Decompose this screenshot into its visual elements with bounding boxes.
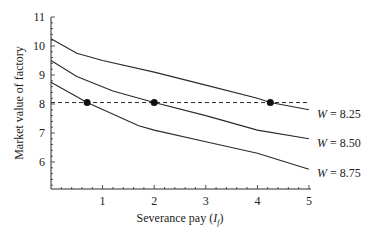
series-label: W = 8.75: [317, 166, 361, 180]
x-tick-label: 2: [151, 194, 157, 208]
y-tick-label: 11: [33, 10, 45, 24]
plot-area: 6789101112345Severance pay (If)Market va…: [12, 10, 361, 227]
y-axis-title: Market value of factory: [12, 46, 26, 160]
intersection-marker: [84, 99, 91, 106]
x-tick-label: 1: [100, 194, 106, 208]
intersection-marker: [151, 99, 158, 106]
series-label: W = 8.25: [317, 107, 361, 121]
series-line: [51, 82, 309, 169]
x-tick-label: 3: [203, 194, 209, 208]
x-tick-label: 4: [254, 194, 260, 208]
series-label: W = 8.50: [317, 136, 361, 150]
intersection-marker: [267, 99, 274, 106]
y-tick-label: 9: [39, 68, 45, 82]
y-tick-label: 10: [33, 39, 45, 53]
chart: 6789101112345Severance pay (If)Market va…: [0, 0, 376, 240]
y-tick-label: 8: [39, 97, 45, 111]
y-tick-label: 7: [39, 126, 45, 140]
y-tick-label: 6: [39, 155, 45, 169]
x-axis-title: Severance pay (If): [137, 211, 224, 227]
x-tick-label: 5: [306, 194, 312, 208]
